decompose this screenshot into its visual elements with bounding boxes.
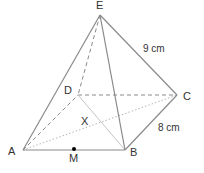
point-M-dot xyxy=(72,147,76,151)
label-E: E xyxy=(96,0,103,11)
edge-ED-hidden xyxy=(78,15,100,95)
edge-EB xyxy=(100,15,125,150)
edge-AD-hidden xyxy=(23,95,78,150)
label-M: M xyxy=(69,152,78,164)
label-B: B xyxy=(130,146,137,158)
label-D: D xyxy=(64,84,72,96)
pyramid-diagram: E D C A B M X 9 cm 8 cm xyxy=(0,0,204,173)
label-A: A xyxy=(8,145,16,157)
measurement-BC: 8 cm xyxy=(158,122,180,133)
edge-EC xyxy=(100,15,177,95)
label-C: C xyxy=(183,90,191,102)
diagonal-AC xyxy=(23,95,177,150)
measurement-EC: 9 cm xyxy=(143,43,165,54)
label-X: X xyxy=(81,115,89,127)
edge-EA xyxy=(23,15,100,150)
